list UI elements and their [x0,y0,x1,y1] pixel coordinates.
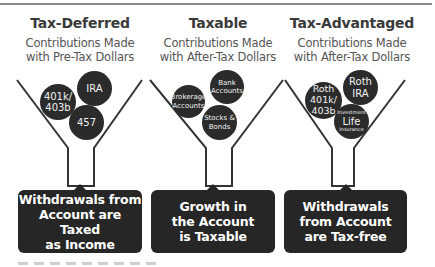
ball-label: Roth [349,76,372,88]
ball-label: 401k/ [44,91,72,103]
account-ball-bank: Bank Accounts [210,70,244,104]
ball-label: Bank [218,79,236,87]
account-ball-roth-ira: Roth IRA [343,70,378,105]
account-ball-ira: IRA [77,71,112,106]
outcome-box-taxable: Growth in the Account is Taxable [151,190,275,253]
account-ball-life-insurance: Investment Life Insurance [334,104,369,139]
ball-label: Stocks & [204,114,235,122]
ball-label: IRA [86,83,102,95]
ball-label: Brokerage [171,93,207,101]
ball-label: Accounts [173,102,205,110]
ball-label: 403b [311,106,335,117]
outcome-line: Growth in [179,199,246,214]
ball-label: 403b [45,102,70,114]
cropped-footnote [18,262,158,265]
outcome-line: the Account [172,214,254,229]
outcome-line: Account are Taxed [18,207,142,237]
box-pointer [206,184,220,191]
outcome-line: as Income [45,237,114,252]
account-ball-brokerage: Brokerage Accounts [172,85,205,118]
ball-label: Bonds [209,123,231,131]
outcome-line: Withdrawals from [19,192,142,207]
account-ball-457: 457 [69,105,104,140]
outcome-box-tax-deferred: Withdrawals from Account are Taxed as In… [18,190,142,253]
outcome-line: are Tax-free [304,229,386,244]
outcome-line: Withdrawals [302,199,388,214]
outcome-box-tax-advantaged: Withdrawals from Account are Tax-free [284,190,407,253]
ball-label: IRA [352,88,368,100]
outcome-line: from Account [299,214,391,229]
funnel-icon [10,0,150,200]
box-pointer [339,184,353,191]
ball-label: Accounts [211,87,243,95]
outcome-line: is Taxable [179,229,247,244]
ball-label: 457 [77,117,96,129]
box-pointer [73,184,87,191]
account-ball-stocks-bonds: Stocks & Bonds [202,105,237,140]
ball-label: Insurance [339,127,364,133]
